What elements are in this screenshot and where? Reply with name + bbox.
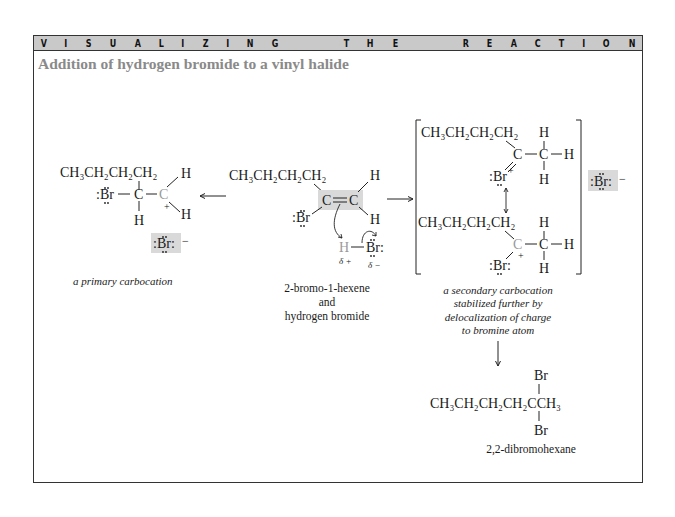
chain-label: CH₃CH₂CH₂CH₂ (418, 215, 515, 230)
carbon-label: C (322, 193, 331, 208)
caption-reactants-line: 2-bromo-1-hexene (284, 282, 370, 294)
left-bracket (416, 120, 421, 274)
chain-label: CH₃CH₂CH₂CH₂ (421, 125, 518, 140)
reactants: CH₃CH₂CH₂CH₂ C C H H :Br H Br: δ + δ − 2… (229, 168, 384, 323)
caption-secondary-line: a secondary carbocation (443, 284, 553, 296)
hydrogen-label: H (539, 215, 549, 230)
resonance-arrow-icon (504, 188, 508, 213)
carbocation-carbon: C (159, 187, 168, 202)
caption-secondary-line: delocalization of charge (445, 311, 552, 323)
carbon-label: C (349, 193, 358, 208)
hydrogen-label: H (181, 166, 191, 181)
hydrogen-label: H (539, 261, 549, 276)
hbr-bromine: Br: (366, 240, 384, 255)
caption-primary: a primary carbocation (73, 275, 173, 287)
bromine-label: :Br: (489, 258, 511, 273)
carbon-label: C (539, 147, 548, 162)
delta-plus: δ + (339, 256, 352, 266)
chain-label: CH₃CH₂CH₂CH₂ (229, 168, 326, 183)
bromine-label: :Br (96, 187, 114, 202)
carbon-label: C (539, 237, 548, 252)
chain-label: CH₃CH₂CH₂CH₂ (60, 165, 157, 180)
negative-charge: − (619, 172, 626, 186)
bromide-ion: :Br: (153, 236, 175, 251)
positive-charge: + (508, 165, 514, 176)
hydrogen-label: H (370, 212, 380, 227)
primary-carbocation: CH₃CH₂CH₂CH₂ :Br C C + H H H :Br: − a pr… (60, 165, 191, 287)
delta-minus: δ − (368, 260, 381, 270)
hydrogen-label: H (564, 147, 574, 162)
caption-reactants-line: hydrogen bromide (285, 310, 370, 323)
hydrogen-label: H (564, 237, 574, 252)
arrow-right-icon (387, 197, 413, 202)
product: Br CH₃CH₂CH₂CH₂CCH₃ Br 2,2-dibromohexane (430, 368, 576, 456)
hydrogen-label: H (370, 168, 380, 183)
caption-product: 2,2-dibromohexane (486, 443, 576, 456)
product-formula: CH₃CH₂CH₂CH₂CCH₃ (430, 396, 561, 411)
hydrogen-label: H (539, 125, 549, 140)
caption-secondary-line: stabilized further by (454, 297, 543, 309)
caption-secondary-line: to bromine atom (462, 324, 534, 336)
hydrogen-label: H (181, 207, 191, 222)
secondary-carbocation: CH₃CH₂CH₂CH₂ C C H H H :Br + CH₃CH₂CH₂CH… (416, 120, 626, 336)
hbr-hydrogen: H (339, 240, 349, 255)
positive-charge: + (518, 250, 524, 261)
carbon-label: C (513, 147, 522, 162)
arrow-down-icon (496, 341, 501, 366)
right-bracket (576, 120, 581, 274)
bromine-label: :Br (489, 169, 507, 184)
hydrogen-label: H (134, 213, 144, 228)
hydrogen-label: H (539, 172, 549, 187)
reaction-diagram: CH₃CH₂CH₂CH₂ :Br C C + H H H :Br: − a pr… (0, 0, 675, 517)
bromine-label: :Br (292, 210, 310, 225)
negative-charge: − (182, 234, 189, 248)
arrow-left-icon (200, 194, 226, 199)
carbon-label: C (134, 187, 143, 202)
bromide-ion: :Br: (590, 174, 612, 189)
bromine-label: Br (534, 423, 548, 438)
caption-reactants-line: and (319, 296, 336, 308)
bromine-label: Br (534, 368, 548, 383)
